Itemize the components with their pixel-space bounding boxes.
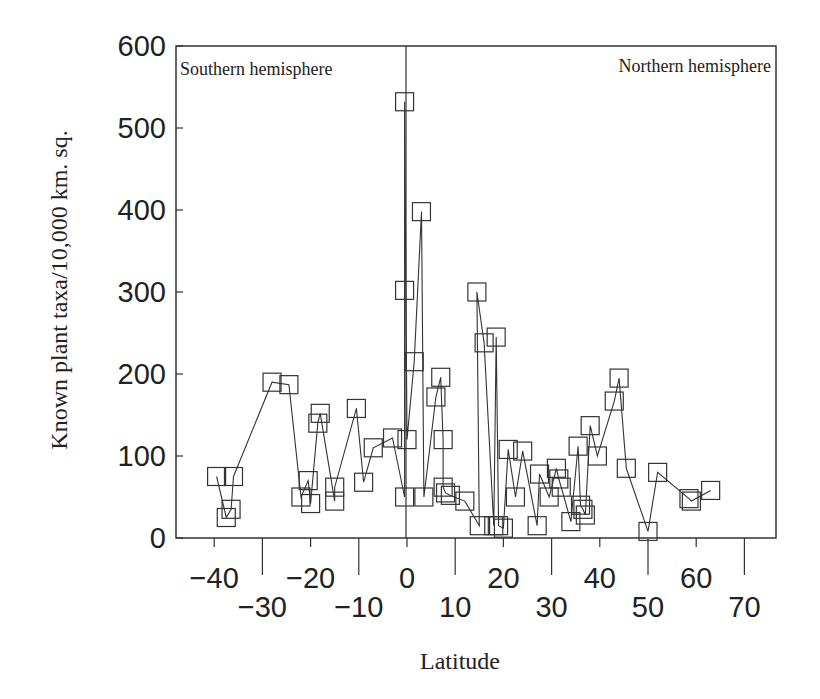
y-tick-label: 400 — [118, 194, 166, 226]
x-tick-label: 40 — [584, 562, 616, 594]
x-axis-title: Latitude — [420, 648, 500, 674]
x-tick-label: −40 — [190, 562, 239, 594]
series-line — [217, 102, 711, 532]
x-tick-label: −10 — [334, 591, 383, 623]
x-tick-label: 0 — [399, 562, 415, 594]
y-axis-title: Known plant taxa/10,000 km. sq. — [46, 130, 72, 449]
y-tick-label: 0 — [150, 522, 166, 554]
data-series — [208, 93, 720, 541]
plot-frame — [176, 46, 776, 538]
x-tick-label: −20 — [286, 562, 335, 594]
northern-hemisphere-label: Northern hemisphere — [619, 56, 771, 76]
x-tick-label: 60 — [680, 562, 712, 594]
x-tick-label: 20 — [487, 562, 519, 594]
chart-canvas: 0100200300400500600 −40−200204060−30−101… — [0, 0, 820, 699]
x-tick-label: 10 — [439, 591, 471, 623]
y-axis: 0100200300400500600 — [118, 30, 183, 554]
x-axis: −40−200204060−30−1010305070 — [190, 538, 761, 623]
x-tick-label: 70 — [728, 591, 760, 623]
x-tick-label: −30 — [238, 591, 287, 623]
y-tick-label: 300 — [118, 276, 166, 308]
y-tick-label: 600 — [118, 30, 166, 62]
y-tick-label: 200 — [118, 358, 166, 390]
y-tick-label: 500 — [118, 112, 166, 144]
x-tick-label: 30 — [535, 591, 567, 623]
x-tick-label: 50 — [632, 591, 664, 623]
southern-hemisphere-label: Southern hemisphere — [180, 59, 332, 79]
y-tick-label: 100 — [118, 440, 166, 472]
